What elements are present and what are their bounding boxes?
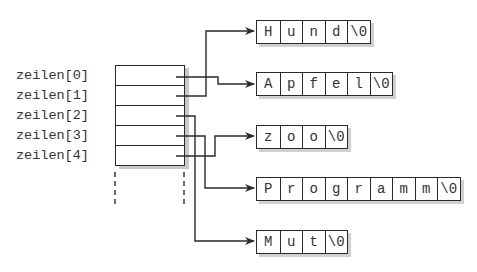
char-cell: p bbox=[280, 73, 303, 95]
char-cell: e bbox=[325, 73, 348, 95]
null-terminator-cell: \0 bbox=[370, 73, 393, 95]
char-cell: l bbox=[347, 73, 370, 95]
char-cell: r bbox=[280, 178, 303, 200]
char-cell: A bbox=[257, 73, 280, 95]
pointer-2-to-mut bbox=[176, 116, 254, 241]
string-hund: H u n d \0 bbox=[256, 20, 371, 44]
char-cell: n bbox=[302, 21, 325, 43]
char-cell: z bbox=[257, 126, 280, 148]
char-cell: o bbox=[302, 178, 325, 200]
null-terminator-cell: \0 bbox=[325, 231, 348, 253]
char-cell: t bbox=[302, 231, 325, 253]
pointer-0-to-apfel bbox=[176, 77, 254, 84]
char-cell: o bbox=[280, 126, 303, 148]
char-cell: H bbox=[257, 21, 280, 43]
string-zoo: z o o \0 bbox=[256, 125, 348, 149]
char-cell: g bbox=[325, 178, 348, 200]
char-cell: a bbox=[370, 178, 393, 200]
null-terminator-cell: \0 bbox=[437, 178, 460, 200]
pointer-1-to-hund bbox=[176, 31, 254, 96]
pointer-array-diagram: zeilen[0] zeilen[1] zeilen[2] zeilen[3] … bbox=[0, 0, 477, 272]
pointer-4-to-zoo bbox=[176, 136, 254, 156]
null-terminator-cell: \0 bbox=[325, 126, 348, 148]
char-cell: o bbox=[302, 126, 325, 148]
char-cell: d bbox=[325, 21, 348, 43]
char-cell: u bbox=[280, 231, 303, 253]
null-terminator-cell: \0 bbox=[347, 21, 370, 43]
connector-lines bbox=[0, 0, 477, 272]
string-programm: P r o g r a m m \0 bbox=[256, 177, 461, 201]
string-apfel: A p f e l \0 bbox=[256, 72, 393, 96]
char-cell: f bbox=[302, 73, 325, 95]
char-cell: m bbox=[415, 178, 438, 200]
string-mut: M u t \0 bbox=[256, 230, 348, 254]
char-cell: M bbox=[257, 231, 280, 253]
char-cell: P bbox=[257, 178, 280, 200]
char-cell: m bbox=[392, 178, 415, 200]
char-cell: r bbox=[347, 178, 370, 200]
char-cell: u bbox=[280, 21, 303, 43]
